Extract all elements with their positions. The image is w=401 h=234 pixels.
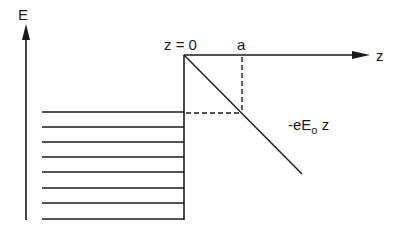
diagram-canvas: E z z = 0 a -eEo z	[0, 0, 401, 234]
energy-axis-label: E	[18, 6, 28, 23]
energy-band-diagram: E z z = 0 a -eEo z	[0, 0, 401, 234]
z-axis: z	[184, 47, 384, 64]
potential-label: -eEo z	[288, 116, 329, 136]
potential-label-suffix: z	[317, 116, 329, 133]
z-axis-arrowhead-icon	[352, 51, 370, 59]
energy-axis: E	[18, 6, 30, 220]
energy-axis-arrowhead-icon	[22, 24, 30, 40]
z-axis-label: z	[376, 47, 384, 64]
width-marker-label: a	[237, 36, 246, 53]
potential-label-prefix: -eE	[288, 116, 311, 133]
potential-slope-line	[184, 55, 302, 174]
origin-label: z = 0	[164, 36, 197, 53]
filled-energy-levels	[42, 112, 184, 219]
